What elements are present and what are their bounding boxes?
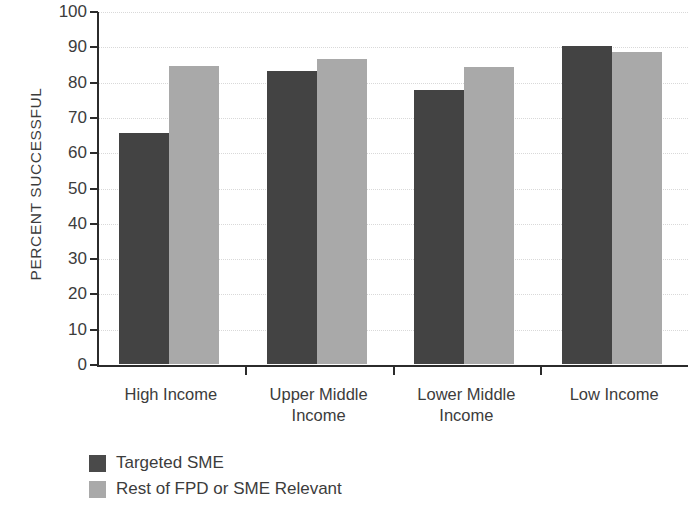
- bar: [169, 66, 219, 364]
- y-axis-tick: [90, 293, 98, 295]
- legend: Targeted SMERest of FPD or SME Relevant: [89, 450, 342, 502]
- x-axis-label-line: Income: [393, 405, 541, 426]
- legend-swatch-icon: [89, 455, 106, 472]
- x-axis-tick: [393, 366, 395, 375]
- x-axis-tick: [245, 366, 247, 375]
- x-axis-label: Upper MiddleIncome: [245, 384, 393, 425]
- bar: [119, 133, 169, 364]
- bar: [464, 67, 514, 364]
- y-axis-tick: [90, 223, 98, 225]
- y-axis-tick-label: 80: [27, 74, 87, 91]
- plot-area: 0102030405060708090100 High IncomeUpper …: [97, 12, 688, 365]
- x-axis-label: Lower MiddleIncome: [393, 384, 541, 425]
- bar: [267, 71, 317, 364]
- y-axis-tick-label: 0: [27, 356, 87, 373]
- y-axis-tick-label: 10: [27, 321, 87, 338]
- x-axis-label-line: Income: [245, 405, 393, 426]
- y-axis-tick-label: 60: [27, 144, 87, 161]
- y-axis-tick-label: 20: [27, 285, 87, 302]
- y-axis-tick: [90, 364, 98, 366]
- y-axis-tick-label: 50: [27, 180, 87, 197]
- x-axis-tick: [540, 366, 542, 375]
- bar: [414, 90, 464, 364]
- y-axis-tick-label: 90: [27, 38, 87, 55]
- y-axis-tick-label: 30: [27, 250, 87, 267]
- bar: [612, 52, 662, 364]
- bar: [317, 59, 367, 364]
- x-axis-label: High Income: [97, 384, 245, 405]
- y-axis-tick: [90, 82, 98, 84]
- y-axis-tick-label: 70: [27, 109, 87, 126]
- x-axis-label-line: High Income: [97, 384, 245, 405]
- y-axis-tick-label: 40: [27, 215, 87, 232]
- legend-swatch-icon: [89, 481, 106, 498]
- y-axis-tick: [90, 11, 98, 13]
- y-axis-tick: [90, 258, 98, 260]
- legend-label: Rest of FPD or SME Relevant: [116, 479, 342, 499]
- legend-item[interactable]: Targeted SME: [89, 450, 342, 476]
- y-axis-tick: [90, 329, 98, 331]
- x-axis-label-line: Low Income: [540, 384, 688, 405]
- x-axis-label-line: Upper Middle: [245, 384, 393, 405]
- bar: [562, 46, 612, 364]
- x-axis-label-line: Lower Middle: [393, 384, 541, 405]
- bar-chart: PERCENT SUCCESSFUL 010203040506070809010…: [0, 0, 688, 512]
- legend-label: Targeted SME: [116, 453, 224, 473]
- legend-item[interactable]: Rest of FPD or SME Relevant: [89, 476, 342, 502]
- y-axis-tick-label: 100: [27, 3, 87, 20]
- x-axis-label: Low Income: [540, 384, 688, 405]
- y-axis-tick: [90, 152, 98, 154]
- y-axis-tick: [90, 46, 98, 48]
- gridline: [99, 12, 688, 14]
- y-axis-tick: [90, 188, 98, 190]
- y-axis-tick: [90, 117, 98, 119]
